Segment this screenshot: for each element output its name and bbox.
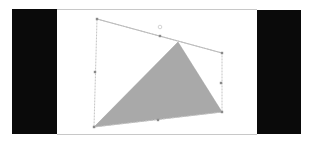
resize-handle-3[interactable] xyxy=(220,82,222,84)
resize-handle-5[interactable] xyxy=(157,119,159,121)
resize-handle-4[interactable] xyxy=(221,111,223,113)
rotation-handle[interactable] xyxy=(158,25,162,29)
resize-handle-0[interactable] xyxy=(96,18,98,20)
resize-handle-7[interactable] xyxy=(94,71,96,73)
resize-handle-2[interactable] xyxy=(221,52,223,54)
drawing-layer xyxy=(0,0,312,143)
resize-handle-6[interactable] xyxy=(93,126,95,128)
resize-handle-1[interactable] xyxy=(159,35,161,37)
